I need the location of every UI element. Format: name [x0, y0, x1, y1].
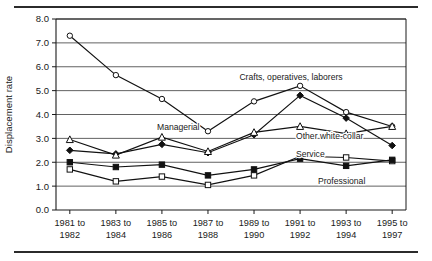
data-point-marker [158, 133, 165, 140]
x-tick-label: 1993 to [331, 218, 362, 228]
x-tick-label: 1994 [336, 230, 356, 240]
data-point-marker [67, 147, 74, 154]
y-tick-label: 1.0 [36, 181, 49, 192]
data-point-marker [251, 173, 256, 178]
y-tick-label: 3.0 [36, 133, 49, 144]
data-point-marker [251, 167, 256, 172]
data-point-marker [297, 123, 304, 130]
data-point-marker [297, 83, 302, 88]
x-tick-label: 1990 [244, 230, 264, 240]
y-tick-label: 8.0 [36, 13, 49, 24]
data-point-marker [343, 109, 348, 114]
data-point-marker [389, 142, 396, 149]
data-point-marker [251, 99, 256, 104]
y-tick-label: 5.0 [36, 85, 49, 96]
x-tick-label: 1983 to [101, 218, 132, 228]
data-point-marker [343, 115, 350, 122]
series-markers-group [66, 33, 395, 188]
series-label: Other white-collar [296, 131, 363, 141]
y-axis-title: Displacement rate [3, 76, 14, 153]
data-point-marker [159, 141, 166, 148]
series-label: Crafts, operatives, laborers [239, 72, 342, 82]
data-point-marker [67, 160, 72, 165]
series-line [70, 95, 392, 153]
y-tick-label: 0.0 [36, 204, 49, 215]
x-tick-label: 1986 [152, 230, 172, 240]
data-point-marker [113, 72, 118, 77]
displacement-rate-line-chart: 0.01.02.03.04.05.06.07.08.0 1981 to19821… [0, 0, 432, 261]
x-tick-label: 1981 to [54, 218, 85, 228]
x-tick-label: 1987 to [193, 218, 224, 228]
x-tick-label: 1992 [290, 230, 310, 240]
chart-figure: 0.01.02.03.04.05.06.07.08.0 1981 to19821… [0, 0, 432, 261]
data-point-marker [159, 174, 164, 179]
data-point-marker [66, 136, 73, 143]
x-tick-label: 1984 [106, 230, 126, 240]
data-point-marker [343, 163, 348, 168]
data-point-marker [389, 157, 394, 162]
data-point-marker [205, 129, 210, 134]
series-label: Service [296, 149, 325, 159]
x-tick-label: 1985 to [147, 218, 178, 228]
data-point-marker [67, 167, 72, 172]
x-tick-label: 1997 [382, 230, 402, 240]
y-axis-title-group: Displacement rate [3, 76, 14, 153]
data-point-marker [113, 179, 118, 184]
data-point-marker [159, 96, 164, 101]
y-tick-label: 4.0 [36, 109, 49, 120]
y-axis-tick-labels: 0.01.02.03.04.05.06.07.08.0 [36, 13, 49, 215]
x-tick-label: 1995 to [377, 218, 408, 228]
data-point-marker [113, 164, 118, 169]
data-point-marker [205, 173, 210, 178]
series-label: Professional [318, 176, 365, 186]
data-point-marker [205, 182, 210, 187]
series-label: Managerial [157, 122, 200, 132]
y-tick-label: 2.0 [36, 157, 49, 168]
x-axis-tick-labels: 1981 to19821983 to19841985 to19861987 to… [54, 210, 407, 240]
data-point-marker [67, 33, 72, 38]
x-tick-label: 1982 [60, 230, 80, 240]
data-point-marker [159, 162, 164, 167]
x-tick-label: 1988 [198, 230, 218, 240]
y-tick-label: 6.0 [36, 61, 49, 72]
y-tick-label: 7.0 [36, 37, 49, 48]
data-point-marker [343, 155, 348, 160]
x-tick-label: 1989 to [239, 218, 270, 228]
x-tick-label: 1991 to [285, 218, 316, 228]
